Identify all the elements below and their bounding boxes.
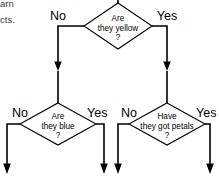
node-label-yellow: Are they yellow ? <box>98 14 139 43</box>
branch-label-blue-no: No <box>12 107 28 120</box>
edge-blue-no <box>3 124 20 174</box>
branch-label-yellow-no: No <box>50 10 66 23</box>
edge-yellow-no <box>54 26 84 71</box>
edge-petals-no <box>114 124 129 174</box>
node-label-yellow-line2: they yellow <box>98 24 139 33</box>
node-label-yellow-line1: Are <box>112 14 125 23</box>
branch-label-petals-no: No <box>121 107 137 120</box>
node-label-yellow-line3: ? <box>98 33 139 43</box>
margin-text-fragment-top: arn <box>0 0 14 9</box>
margin-text-fragment-bottom: cts. <box>0 15 15 25</box>
node-label-petals-line2: they got petals <box>140 122 193 131</box>
node-label-blue-line1: Are <box>52 112 65 121</box>
flowchart-root: arn cts. No Yes No Yes No Yes Are they y… <box>0 0 219 177</box>
branch-label-blue-yes: Yes <box>87 107 107 120</box>
edge-petals-yes <box>205 124 214 174</box>
branch-label-petals-yes: Yes <box>196 107 216 120</box>
node-label-petals-line1: Have <box>157 112 176 121</box>
edge-yellow-yes <box>152 26 171 71</box>
edge-blue-yes <box>96 124 108 174</box>
node-label-blue-line3: ? <box>41 131 74 141</box>
branch-label-yellow-yes: Yes <box>157 10 177 23</box>
node-label-blue-line2: they blue <box>41 122 74 131</box>
node-label-petals: Have they got petals ? <box>140 112 193 141</box>
node-label-blue: Are they blue ? <box>41 112 74 141</box>
node-label-petals-line3: ? <box>140 131 193 141</box>
